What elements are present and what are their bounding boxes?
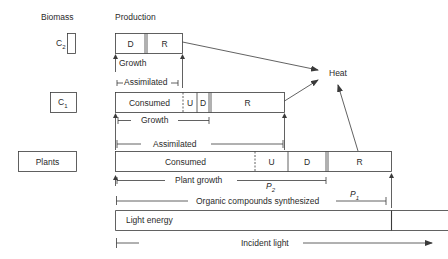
c1-growth-label: Growth: [141, 116, 168, 125]
c2-segment-d: D: [116, 34, 145, 53]
c2-biomass-label: C2: [56, 39, 65, 50]
c1-segment-consumed: Consumed: [116, 93, 183, 112]
plants-segment-consumed: Consumed: [116, 152, 255, 171]
c2-segment-r: R: [147, 34, 182, 53]
c1-biomass-label: C1: [58, 98, 67, 109]
plant-growth-label: Plant growth: [175, 176, 222, 185]
c1-segment-u: U: [183, 93, 197, 112]
incident-light-label: Incident light: [241, 239, 289, 248]
plants-biomass-label: Plants: [19, 152, 76, 171]
plants-segment-r: R: [328, 152, 391, 171]
c2-assimilated-label: Assimilated: [124, 78, 167, 87]
plants-segment-d: D: [288, 152, 326, 171]
c2-biomass-box: [68, 34, 76, 54]
p1-label: P1: [350, 190, 359, 201]
c1-assimilated-label: Assimilated: [153, 140, 196, 149]
c1-segment-d: D: [197, 93, 209, 112]
c1-segment-r: R: [211, 93, 284, 112]
p2-label: P2: [266, 182, 275, 193]
organic-compounds-label: Organic compounds synthesized: [196, 197, 319, 206]
diagram-lines: [0, 0, 448, 259]
light-energy-label: Light energy: [126, 216, 173, 225]
plants-segment-u: U: [255, 152, 288, 171]
c2-growth-label: Growth: [119, 59, 146, 68]
heat-label: Heat: [329, 69, 347, 78]
